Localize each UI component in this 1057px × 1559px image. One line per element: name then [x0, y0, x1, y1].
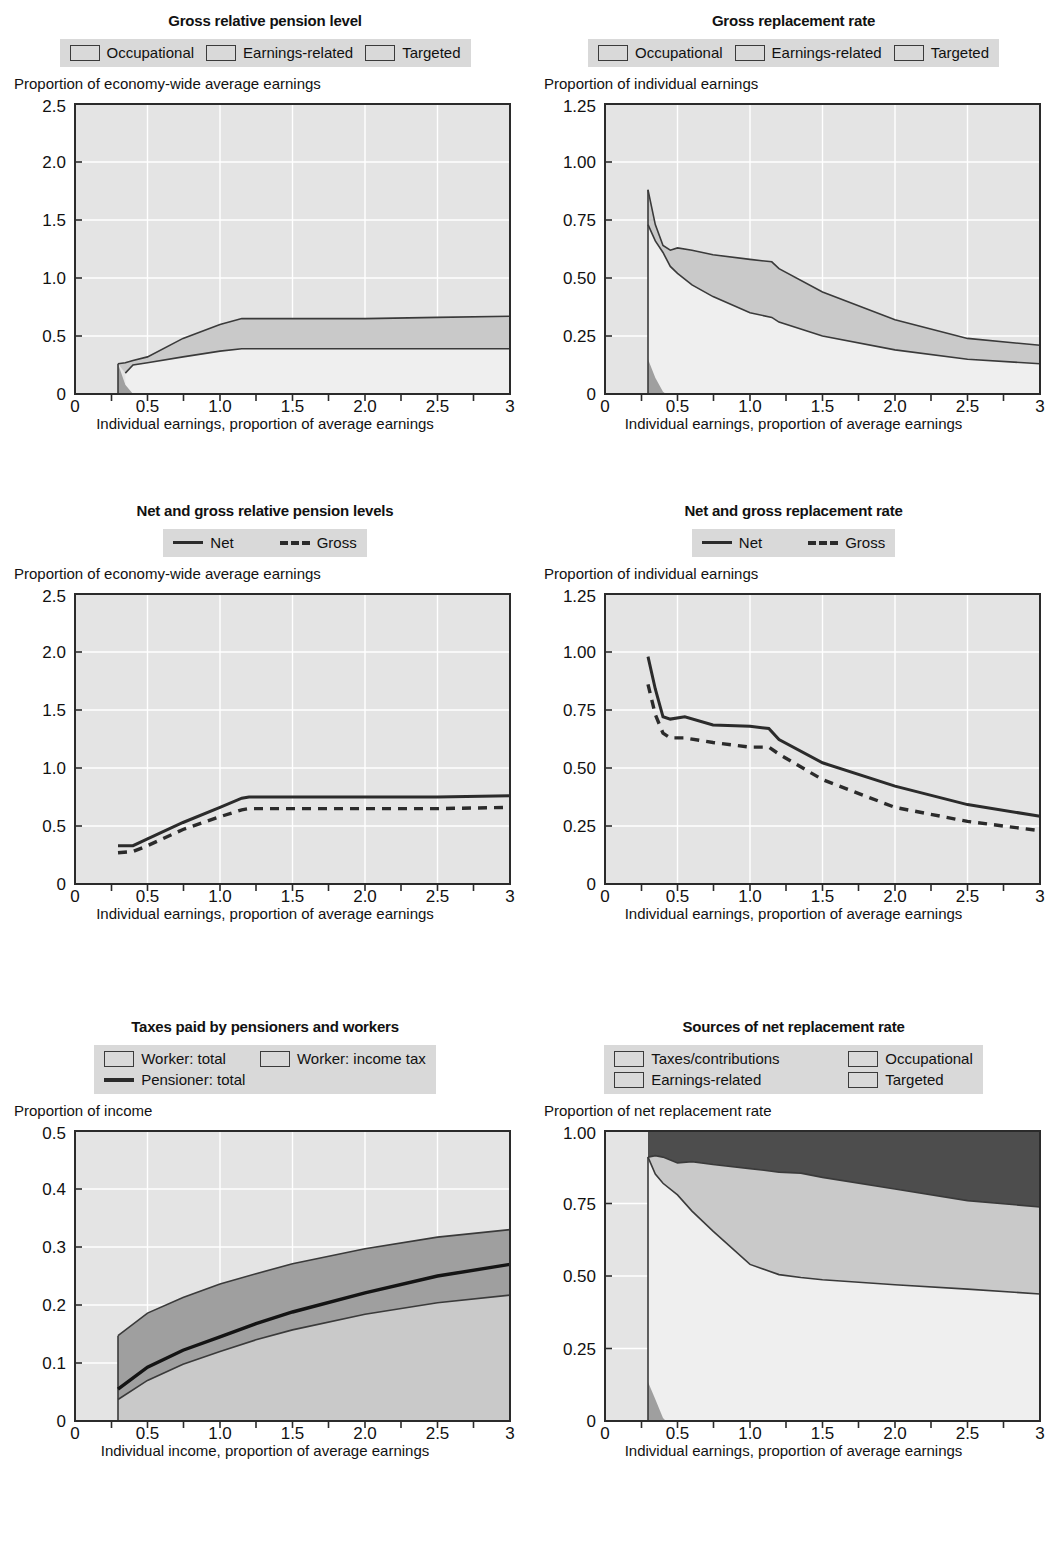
plot-svg: 0 0.25 0.50 0.75 1.00 0 0.5 1.0 1.5 2.0 … [530, 1121, 1057, 1441]
chart-title: Gross replacement rate [530, 0, 1057, 29]
y-axis-title: Proportion of economy-wide average earni… [14, 75, 530, 92]
y-tick-label: 2.0 [42, 643, 66, 662]
plot-area: 0 0.5 1.0 1.5 2.0 2.5 0 0.5 1.0 1.5 2.0 … [0, 94, 530, 414]
y-tick-label: 0 [57, 1412, 66, 1431]
legend-item-targeted: Targeted [894, 44, 989, 61]
plot-area: 0 0.25 0.50 0.75 1.00 1.25 0 0.5 1.0 1.5… [530, 94, 1057, 414]
legend-label: Targeted [402, 44, 460, 61]
legend-swatch-worker-total-icon [104, 1051, 134, 1067]
chart-legend: Net Gross [163, 529, 366, 557]
y-tick-label: 1.25 [563, 97, 596, 116]
plot-svg: 0 0.1 0.2 0.3 0.4 0.5 0 0.5 1.0 1.5 2.0 … [0, 1121, 530, 1441]
x-tick-label: 0.5 [666, 1424, 690, 1441]
chart-legend: Worker: total Worker: income tax Pension… [94, 1045, 436, 1094]
y-tick-label: 0 [587, 385, 596, 404]
x-tick-label: 0.5 [136, 397, 160, 414]
x-tick-label: 1.0 [208, 887, 232, 904]
plot-svg: 0 0.5 1.0 1.5 2.0 2.5 0 0.5 1.0 1.5 2.0 … [0, 584, 530, 904]
x-tick-label: 2.5 [956, 887, 980, 904]
y-tick-label: 1.0 [42, 269, 66, 288]
x-tick-label: 2.5 [956, 1424, 980, 1441]
y-axis-title: Proportion of economy-wide average earni… [14, 565, 530, 582]
x-tick-label: 2.0 [353, 887, 377, 904]
chart-panel-gross-replacement-rate: Gross replacement rate Occupational Earn… [530, 0, 1057, 490]
legend-label: Worker: total [141, 1050, 226, 1067]
y-tick-label: 0 [587, 1412, 596, 1431]
x-axis-title: Individual income, proportion of average… [0, 1442, 530, 1459]
x-tick-label: 0 [600, 397, 609, 414]
y-tick-label: 2.5 [42, 97, 66, 116]
x-tick-label: 2.5 [426, 1424, 450, 1441]
legend-label: Earnings-related [651, 1071, 761, 1088]
x-axis-title: Individual earnings, proportion of avera… [0, 905, 530, 922]
y-tick-label: 0 [57, 385, 66, 404]
x-tick-label: 0 [70, 887, 79, 904]
plot-area: 0 0.1 0.2 0.3 0.4 0.5 0 0.5 1.0 1.5 2.0 … [0, 1121, 530, 1441]
y-tick-label: 0.25 [563, 327, 596, 346]
chart-title: Gross relative pension level [0, 0, 530, 29]
legend-label: Gross [317, 534, 357, 551]
legend-item-gross: Gross [280, 534, 357, 551]
y-tick-label: 0.75 [563, 701, 596, 720]
x-tick-label: 0 [600, 1424, 609, 1441]
x-tick-label: 2.0 [883, 887, 907, 904]
x-axis-title: Individual earnings, proportion of avera… [530, 905, 1057, 922]
y-tick-label: 1.25 [563, 587, 596, 606]
y-axis-title: Proportion of net replacement rate [544, 1102, 1057, 1119]
legend-swatch-targeted-icon [365, 45, 395, 61]
y-tick-label: 0.75 [563, 211, 596, 230]
legend-item-earnings-related: Earnings-related [614, 1071, 814, 1088]
y-tick-label: 2.0 [42, 153, 66, 172]
plot-area: 0 0.5 1.0 1.5 2.0 2.5 0 0.5 1.0 1.5 2.0 … [0, 584, 530, 904]
y-tick-label: 1.00 [563, 643, 596, 662]
x-tick-label: 2.0 [883, 1424, 907, 1441]
x-tick-label: 2.5 [426, 397, 450, 414]
legend-label: Taxes/contributions [651, 1050, 779, 1067]
x-axis-title: Individual earnings, proportion of avera… [530, 415, 1057, 432]
plot-area: 0 0.25 0.50 0.75 1.00 0 0.5 1.0 1.5 2.0 … [530, 1121, 1057, 1441]
chart-panel-taxes-paid-by-pensioners-and-workers: Taxes paid by pensioners and workers Wor… [0, 980, 530, 1559]
legend-swatch-earnings-related-icon [735, 45, 765, 61]
x-axis-title: Individual earnings, proportion of avera… [0, 415, 530, 432]
x-tick-label: 2.5 [426, 887, 450, 904]
legend-item-net: Net [173, 534, 233, 551]
x-tick-label: 1.5 [811, 1424, 835, 1441]
legend-item-earnings-related: Earnings-related [206, 44, 353, 61]
x-axis-title: Individual earnings, proportion of avera… [530, 1442, 1057, 1459]
legend-label: Worker: income tax [297, 1050, 426, 1067]
legend-line-net-icon [173, 541, 203, 544]
legend-swatch-occupational-icon [848, 1051, 878, 1067]
y-axis-title: Proportion of individual earnings [544, 75, 1057, 92]
x-tick-label: 0.5 [666, 397, 690, 414]
y-tick-label: 0.5 [42, 817, 66, 836]
legend-label: Targeted [931, 44, 989, 61]
chart-title: Taxes paid by pensioners and workers [0, 980, 530, 1035]
y-tick-label: 0.25 [563, 1340, 596, 1359]
x-tick-label: 0.5 [136, 1424, 160, 1441]
y-tick-label: 0 [57, 875, 66, 894]
legend-swatch-earnings-related-icon [614, 1072, 644, 1088]
y-tick-label: 0.3 [42, 1238, 66, 1257]
legend-swatch-taxes-contributions-icon [614, 1051, 644, 1067]
x-tick-label: 3 [1035, 887, 1044, 904]
legend-dashed-line-gross-icon [808, 541, 838, 545]
legend-item-net: Net [702, 534, 762, 551]
chart-title: Net and gross relative pension levels [0, 490, 530, 519]
legend-line-net-icon [702, 541, 732, 544]
y-tick-label: 0.50 [563, 269, 596, 288]
y-tick-label: 1.00 [563, 1124, 596, 1143]
x-tick-label: 0 [70, 397, 79, 414]
legend-label: Targeted [885, 1071, 943, 1088]
legend-item-targeted: Targeted [848, 1071, 943, 1088]
legend-label: Earnings-related [772, 44, 882, 61]
x-tick-label: 1.5 [811, 397, 835, 414]
y-axis-title: Proportion of individual earnings [544, 565, 1057, 582]
x-tick-label: 3 [505, 1424, 514, 1441]
x-tick-label: 1.0 [208, 1424, 232, 1441]
x-tick-label: 2.0 [883, 397, 907, 414]
legend-label: Occupational [885, 1050, 973, 1067]
legend-item-worker-total: Worker: total [104, 1050, 226, 1067]
y-tick-label: 0.5 [42, 327, 66, 346]
chart-legend: Occupational Earnings-related Targeted [60, 39, 471, 67]
x-tick-label: 1.0 [208, 397, 232, 414]
